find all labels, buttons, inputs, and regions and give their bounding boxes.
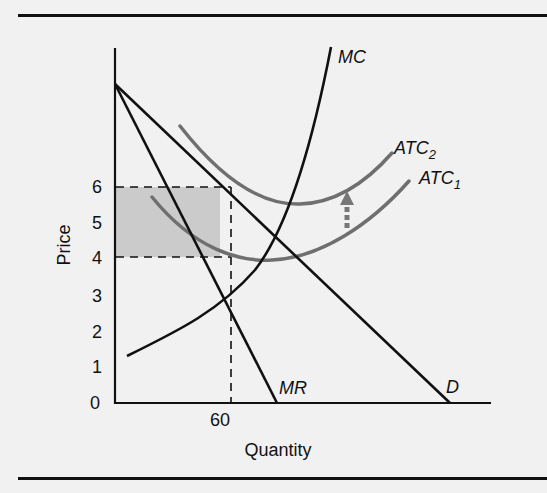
y-tick-5: 5 [92, 213, 102, 233]
shift-up-arrow-icon [340, 191, 354, 228]
y-tick-2: 2 [92, 322, 102, 342]
y-tick-0: 0 [90, 393, 100, 413]
d-label: D [446, 377, 459, 397]
chart-frame: 0 1 2 3 4 5 6 60 Quantity Price MC MR D … [0, 0, 547, 493]
y-tick-6: 6 [92, 177, 102, 197]
y-tick-3: 3 [92, 286, 102, 306]
mr-label: MR [279, 378, 307, 398]
mc-label: MC [338, 47, 367, 67]
atc1-label: ATC1 [418, 168, 461, 192]
y-tick-4: 4 [92, 248, 102, 268]
y-tick-1: 1 [92, 357, 102, 377]
y-axis-title: Price [54, 224, 74, 265]
chart-svg: 0 1 2 3 4 5 6 60 Quantity Price MC MR D … [0, 0, 547, 493]
x-tick-60: 60 [210, 410, 230, 430]
loss-area [116, 187, 220, 257]
x-axis-title: Quantity [244, 440, 311, 460]
atc2-label: ATC2 [393, 138, 437, 162]
